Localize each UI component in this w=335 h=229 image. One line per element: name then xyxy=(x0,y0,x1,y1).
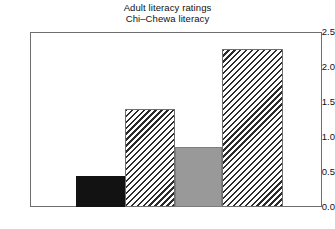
bar-1[interactable] xyxy=(76,176,125,207)
bar-3[interactable] xyxy=(175,147,222,207)
bars-layer xyxy=(0,0,335,229)
chart-container: Adult literacy ratings Chi–Chewa literac… xyxy=(0,0,335,229)
bar-4[interactable] xyxy=(222,49,283,207)
bar-2[interactable] xyxy=(125,109,175,207)
